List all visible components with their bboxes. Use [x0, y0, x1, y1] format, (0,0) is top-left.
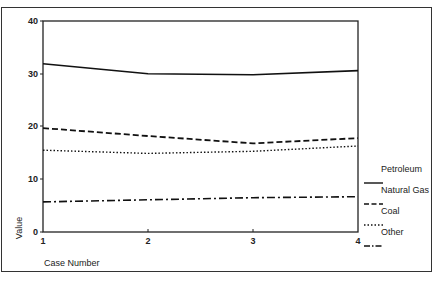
x-tick-4: 4 — [355, 236, 360, 246]
x-tick-1: 1 — [40, 236, 45, 246]
y-axis-title: Value — [14, 217, 24, 239]
series-coal — [43, 146, 358, 153]
legend: Petroleum Natural Gas Coal Other — [364, 164, 430, 246]
line-chart: 0 10 20 30 40 1 2 3 4 Case Number Value … — [0, 0, 436, 297]
x-tick-2: 2 — [145, 236, 150, 246]
y-tick-10: 10 — [28, 174, 38, 184]
y-tick-30: 30 — [28, 69, 38, 79]
y-tick-20: 20 — [28, 121, 38, 131]
series-petroleum — [43, 64, 358, 75]
legend-label-coal: Coal — [381, 206, 400, 216]
x-tick-3: 3 — [250, 236, 255, 246]
legend-label-natural-gas: Natural Gas — [381, 185, 430, 195]
y-tick-40: 40 — [28, 16, 38, 26]
plot-area — [43, 21, 358, 232]
y-tick-0: 0 — [33, 227, 38, 237]
legend-label-petroleum: Petroleum — [381, 164, 422, 174]
legend-label-other: Other — [381, 227, 404, 237]
series-natural-gas — [43, 128, 358, 143]
x-axis-title: Case Number — [44, 258, 100, 268]
series-other — [43, 197, 358, 202]
